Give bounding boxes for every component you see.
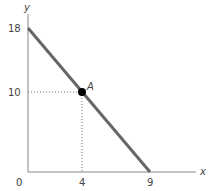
chart: y x 18 10 0 4 9 A	[0, 0, 214, 191]
point-a-marker	[78, 88, 86, 96]
x-axis-label: x	[199, 166, 206, 177]
tick-x-9: 9	[147, 177, 153, 188]
tick-y-18: 18	[8, 23, 21, 34]
chart-canvas: y x 18 10 0 4 9 A	[0, 0, 214, 191]
demand-line	[28, 28, 150, 172]
tick-y-10: 10	[8, 87, 21, 98]
tick-x-4: 4	[79, 177, 85, 188]
y-axis-label: y	[23, 2, 31, 13]
tick-origin: 0	[16, 177, 22, 188]
point-a-label: A	[86, 81, 94, 92]
